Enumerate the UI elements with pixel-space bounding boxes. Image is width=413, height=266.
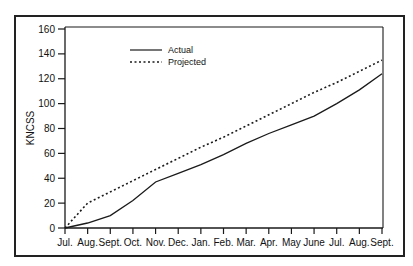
x-tick-label: Jan.	[191, 237, 210, 248]
x-tick-label: Dec.	[168, 237, 189, 248]
x-tick-label: June	[303, 237, 325, 248]
x-tick-label: Oct.	[124, 237, 142, 248]
y-tick-label: 100	[38, 98, 55, 109]
y-tick-label: 160	[38, 24, 55, 35]
y-tick-label: 20	[44, 198, 56, 209]
y-tick-label: 60	[44, 148, 56, 159]
y-axis-title: KNCSS	[25, 110, 36, 145]
x-tick-label: May	[282, 237, 301, 248]
y-tick-label: 140	[38, 48, 55, 59]
y-tick-label: 80	[44, 123, 56, 134]
x-tick-label: Feb.	[213, 237, 233, 248]
line-chart: 020406080100120140160Jul.Aug.Sept.Oct.No…	[0, 0, 413, 266]
x-tick-label: Apr.	[260, 237, 278, 248]
x-tick-label: Jul.	[57, 237, 73, 248]
x-tick-label: Sept.	[370, 237, 393, 248]
x-tick-label: Jul.	[329, 237, 345, 248]
y-tick-label: 40	[44, 173, 56, 184]
x-tick-label: Aug.	[349, 237, 370, 248]
y-tick-label: 0	[49, 223, 55, 234]
x-tick-label: Nov.	[146, 237, 166, 248]
chart-legend: ActualProjected	[130, 45, 206, 67]
x-tick-label: Aug.	[77, 237, 98, 248]
chart-series	[65, 60, 382, 228]
projected-line	[65, 60, 382, 228]
x-tick-label: Sept.	[99, 237, 122, 248]
legend-label-projected: Projected	[168, 57, 206, 67]
x-tick-label: Mar.	[236, 237, 255, 248]
actual-line	[65, 74, 382, 228]
chart-axes: 020406080100120140160Jul.Aug.Sept.Oct.No…	[25, 24, 394, 249]
y-tick-label: 120	[38, 73, 55, 84]
legend-label-actual: Actual	[168, 45, 193, 55]
